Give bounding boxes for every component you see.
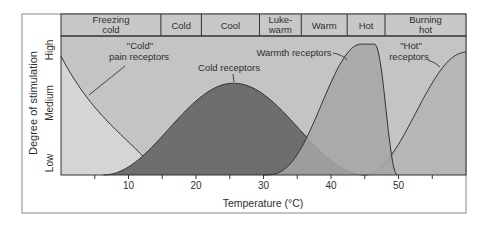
x-tick-label: 30 xyxy=(258,180,270,191)
label-cold-pain-line2: pain receptors xyxy=(109,51,169,62)
band-label: hot xyxy=(419,24,433,35)
x-axis-title: Temperature (°C) xyxy=(223,197,304,209)
band-label: Cold xyxy=(171,20,191,31)
x-tick-label: 40 xyxy=(325,180,337,191)
thermoreceptor-diagram: FreezingcoldColdCoolLuke-warmWarmHotBurn… xyxy=(0,0,486,225)
y-level-medium: Medium xyxy=(44,85,55,121)
band-label: Hot xyxy=(359,20,374,31)
y-level-high: High xyxy=(44,40,55,61)
band-label: Warm xyxy=(312,20,337,31)
label-hot-line1: "Hot" xyxy=(400,40,422,51)
label-hot-line2: receptors xyxy=(389,51,429,62)
label-cold-receptors: Cold receptors xyxy=(198,62,260,73)
label-warmth-receptors: Warmth receptors xyxy=(256,47,331,58)
label-cold-pain-line1: "Cold" xyxy=(127,40,153,51)
x-tick-label: 50 xyxy=(393,180,405,191)
band-label: cold xyxy=(102,24,119,35)
y-level-low: Low xyxy=(44,153,55,172)
x-tick-label: 20 xyxy=(190,180,202,191)
y-axis-title: Degree of stimulation xyxy=(27,51,39,155)
band-label: warm xyxy=(268,24,292,35)
band-label: Cool xyxy=(221,20,241,31)
x-tick-label: 10 xyxy=(123,180,135,191)
